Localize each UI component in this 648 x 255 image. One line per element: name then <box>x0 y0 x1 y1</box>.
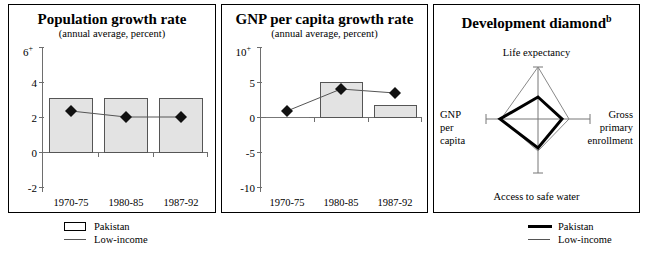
legend-item-low-income: Low-income <box>528 233 648 246</box>
legend-item-pakistan: Pakistan <box>528 220 648 233</box>
legend-label-low-income: Low-income <box>94 233 148 246</box>
legend-label-pakistan: Pakistan <box>94 220 130 233</box>
legend-population: Pakistan Low-income <box>64 220 214 246</box>
low-income-series-overlay <box>222 5 429 214</box>
low-income-series-overlay <box>9 5 217 214</box>
legend-item-pakistan: Pakistan <box>64 220 214 233</box>
panel-gnp-per-capita-growth-rate: GNP per capita growth rate (annual avera… <box>221 4 428 213</box>
legend-swatch-line-icon <box>64 239 86 240</box>
legend-swatch-bold-line-icon <box>528 225 552 228</box>
series-polygon-low-income <box>501 67 569 151</box>
panel-development-diamond: Development diamondb Life expectancy GNP… <box>433 4 640 213</box>
x-tick-label-1987-92: 1987-92 <box>362 197 428 208</box>
series-polygon-pakistan <box>500 97 562 148</box>
legend-swatch-thin-line-icon <box>528 239 550 240</box>
legend-development-diamond: Pakistan Low-income <box>528 220 648 246</box>
panel-population-growth-rate: Population growth rate (annual average, … <box>8 4 216 213</box>
legend-label-low-income: Low-income <box>558 233 612 246</box>
legend-swatch-box-icon <box>64 222 86 231</box>
development-diamond-plot <box>434 5 641 214</box>
legend-label-pakistan: Pakistan <box>558 220 594 233</box>
legend-item-low-income: Low-income <box>64 233 214 246</box>
x-tick-label-1987-92: 1987-92 <box>148 197 214 208</box>
